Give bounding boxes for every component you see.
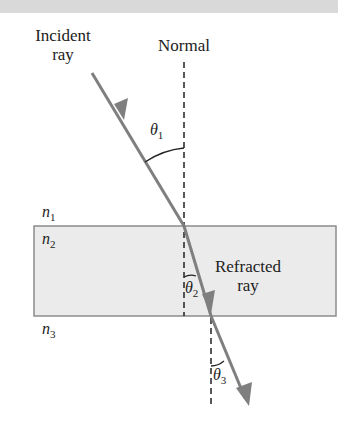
n1-subscript: 1 — [50, 211, 56, 223]
n3-symbol: n — [42, 320, 50, 337]
n2-symbol: n — [42, 230, 50, 247]
theta1-arc — [145, 148, 184, 162]
theta1-symbol: θ — [150, 121, 158, 138]
refracted-label-line2: ray — [204, 276, 292, 295]
n3-label: n3 — [42, 320, 56, 340]
theta2-symbol: θ — [185, 279, 193, 296]
incident-arrowhead — [114, 98, 128, 120]
incident-ray-label: Incident ray — [22, 26, 104, 64]
theta3-label: θ3 — [213, 366, 226, 386]
theta3-subscript: 3 — [221, 374, 227, 386]
theta2-label: θ2 — [185, 279, 198, 299]
n1-symbol: n — [42, 203, 50, 220]
incident-label-line2: ray — [22, 45, 104, 64]
theta1-subscript: 1 — [158, 129, 164, 141]
theta1-label: θ1 — [150, 121, 163, 141]
normal-label: Normal — [146, 36, 222, 55]
n2-label: n2 — [42, 230, 56, 250]
refracted-ray-label: Refracted ray — [204, 257, 292, 295]
n1-label: n1 — [42, 203, 56, 223]
theta2-subscript: 2 — [193, 287, 199, 299]
n2-subscript: 2 — [50, 238, 56, 250]
theta3-symbol: θ — [213, 366, 221, 383]
refracted-label-line1: Refracted — [204, 257, 292, 276]
incident-ray — [92, 73, 184, 226]
incident-label-line1: Incident — [22, 26, 104, 45]
n3-subscript: 3 — [50, 328, 56, 340]
